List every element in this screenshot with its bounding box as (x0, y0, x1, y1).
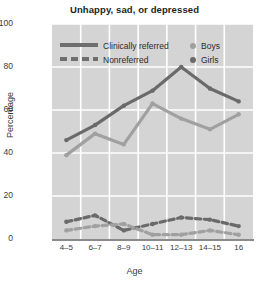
legend-item-nonreferred: Nonreferred (60, 54, 148, 66)
x-axis-line (52, 239, 254, 241)
x-axis-label: Age (0, 266, 269, 276)
girls-marker-icon (190, 57, 196, 63)
solid-line-swatch-icon (60, 43, 98, 47)
legend-label-clinically-referred: Clinically referred (103, 41, 169, 51)
legend-item-boys: Boys (190, 40, 220, 52)
y-tick-label: 20 (0, 190, 13, 200)
dashed-line-swatch-icon (60, 57, 98, 61)
y-tick-label: 100 (0, 18, 13, 28)
y-tick-label: 80 (0, 61, 13, 71)
chart-title: Unhappy, sad, or depressed (0, 4, 269, 15)
legend-label-boys: Boys (201, 41, 220, 51)
y-tick-label: 60 (0, 104, 13, 114)
boys-marker-icon (190, 43, 196, 49)
legend-label-nonreferred: Nonreferred (103, 55, 148, 65)
y-axis-label: Percentage (5, 75, 15, 155)
legend-item-girls: Girls (190, 54, 218, 66)
y-tick-label: 40 (0, 147, 13, 157)
legend-label-girls: Girls (201, 55, 218, 65)
legend-item-clinically-referred: Clinically referred (60, 40, 169, 52)
y-tick-label: 0 (0, 233, 13, 243)
chart-container: Unhappy, sad, or depressed Percentage 02… (0, 0, 269, 285)
x-tick-label: 16 (217, 243, 261, 252)
chart-legend: Clinically referred Nonreferred Boys Gir… (60, 40, 250, 68)
